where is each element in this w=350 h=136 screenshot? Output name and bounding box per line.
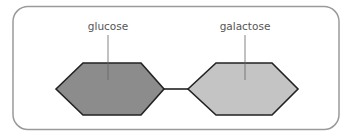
disaccharide-diagram: glucose galactose — [0, 0, 350, 136]
glucose-label: glucose — [88, 20, 128, 32]
galactose-label: galactose — [220, 20, 271, 32]
diagram-frame — [13, 7, 339, 130]
